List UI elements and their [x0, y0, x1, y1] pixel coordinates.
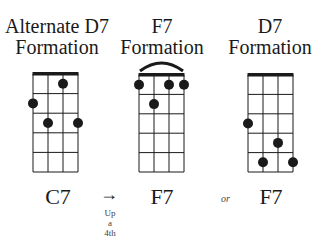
up-a-4th-note: Up a 4th [98, 208, 122, 238]
chord-label-c7: C7 [38, 184, 78, 210]
note-line-2: a [98, 218, 122, 228]
chord-diagrams [0, 0, 332, 248]
finger-dot [28, 98, 38, 108]
chord-grid-f7 [134, 63, 189, 172]
finger-dot [43, 118, 53, 128]
finger-dot [258, 157, 268, 167]
finger-dot [149, 99, 159, 109]
finger-dot [58, 79, 68, 89]
arrow-icon: → [100, 184, 118, 205]
chord-label-f7-second: F7 [251, 184, 291, 210]
note-line-1: Up [98, 208, 122, 218]
chord-grid-alternate-d7 [28, 72, 83, 172]
finger-dot [179, 80, 189, 90]
finger-dot [273, 138, 283, 148]
finger-dot [134, 80, 144, 90]
finger-dot [288, 157, 298, 167]
or-connector: or [221, 193, 230, 204]
finger-dot [164, 80, 174, 90]
note-line-3: 4th [98, 228, 122, 238]
finger-dot [73, 118, 83, 128]
chord-grid-d7 [243, 73, 298, 172]
finger-dot [243, 119, 253, 129]
chord-label-f7-first: F7 [142, 184, 182, 210]
